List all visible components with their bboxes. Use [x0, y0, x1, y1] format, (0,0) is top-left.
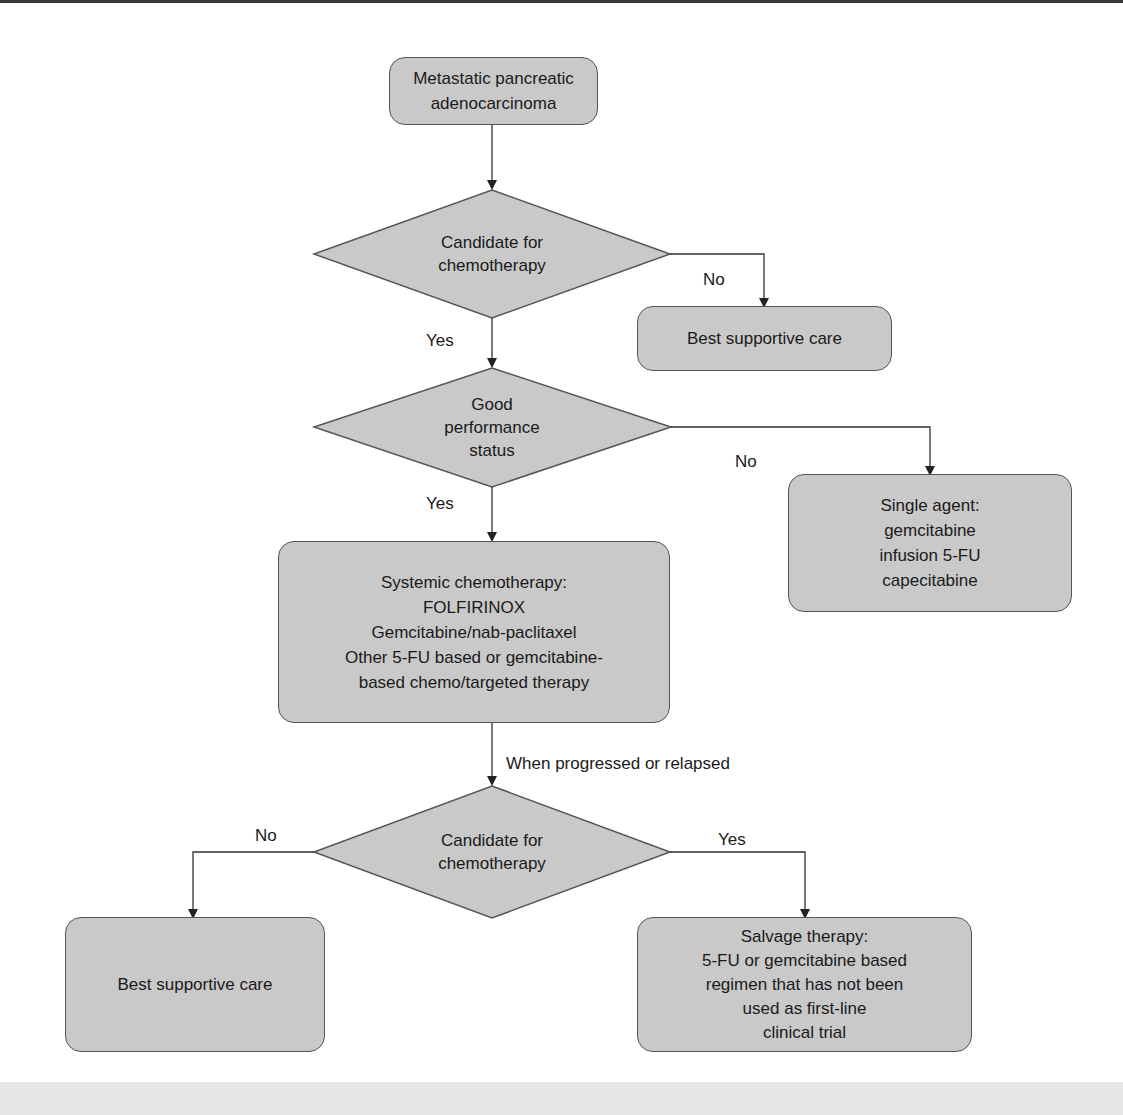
- decision-1-line-1: Candidate for: [441, 231, 543, 254]
- decision-2-line-3: status: [469, 439, 514, 462]
- edge-label-d1-yes: Yes: [426, 331, 454, 351]
- systemic-line-5: based chemo/targeted therapy: [359, 670, 590, 695]
- start-node-line-1: Metastatic pancreatic: [413, 66, 574, 91]
- decision-3-text: Candidate for chemotherapy: [392, 826, 592, 878]
- decision-2-line-2: performance: [444, 416, 539, 439]
- single-agent-line-3: infusion 5-FU: [879, 543, 980, 568]
- single-agent-line-1: Single agent:: [880, 493, 979, 518]
- bsc-2-label: Best supportive care: [118, 972, 273, 997]
- systemic-chemotherapy-node: Systemic chemotherapy: FOLFIRINOX Gemcit…: [278, 541, 670, 723]
- best-supportive-care-node-2: Best supportive care: [65, 917, 325, 1052]
- decision-3-line-1: Candidate for: [441, 829, 543, 852]
- edge-label-progression: When progressed or relapsed: [506, 754, 730, 774]
- best-supportive-care-node-1: Best supportive care: [637, 306, 892, 371]
- edge-label-d1-no: No: [703, 270, 725, 290]
- edge-label-d3-no: No: [255, 826, 277, 846]
- salvage-line-1: Salvage therapy:: [741, 925, 869, 949]
- systemic-line-2: FOLFIRINOX: [423, 595, 525, 620]
- single-agent-line-2: gemcitabine: [884, 518, 976, 543]
- salvage-line-4: used as first-line: [743, 997, 867, 1021]
- bsc-1-label: Best supportive care: [687, 326, 842, 351]
- edge-label-d2-yes: Yes: [426, 494, 454, 514]
- systemic-line-4: Other 5-FU based or gemcitabine-: [345, 645, 603, 670]
- single-agent-node: Single agent: gemcitabine infusion 5-FU …: [788, 474, 1072, 612]
- decision-1-line-2: chemotherapy: [438, 254, 546, 277]
- start-node: Metastatic pancreatic adenocarcinoma: [389, 57, 598, 125]
- salvage-line-2: 5-FU or gemcitabine based: [702, 949, 907, 973]
- decision-1-text: Candidate for chemotherapy: [392, 228, 592, 280]
- decision-2-text: Good performance status: [392, 390, 592, 465]
- decision-3-line-2: chemotherapy: [438, 852, 546, 875]
- start-node-line-2: adenocarcinoma: [431, 91, 557, 116]
- bottom-band: [0, 1082, 1123, 1115]
- salvage-therapy-node: Salvage therapy: 5-FU or gemcitabine bas…: [637, 917, 972, 1052]
- systemic-line-1: Systemic chemotherapy:: [381, 570, 567, 595]
- edge-label-d2-no: No: [735, 452, 757, 472]
- edge-label-d3-yes: Yes: [718, 830, 746, 850]
- decision-2-line-1: Good: [471, 393, 513, 416]
- systemic-line-3: Gemcitabine/nab-paclitaxel: [371, 620, 576, 645]
- single-agent-line-4: capecitabine: [882, 568, 977, 593]
- salvage-line-5: clinical trial: [763, 1021, 846, 1045]
- salvage-line-3: regimen that has not been: [706, 973, 904, 997]
